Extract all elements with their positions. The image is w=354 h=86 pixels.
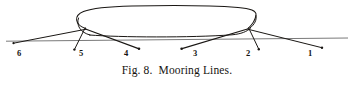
ship-hull-bow-curve [78, 18, 90, 35]
mooring-rope-4 [86, 29, 139, 49]
figure-caption: Fig. 8. Mooring Lines. [0, 64, 354, 76]
mooring-label-5: 5 [79, 48, 83, 58]
mooring-label-2: 2 [246, 48, 250, 58]
anchor-point-6 [12, 42, 14, 44]
figure-container: 6 5 4 3 2 1 Fig. 8. Mooring Lines. [0, 0, 354, 86]
mooring-label-6: 6 [17, 48, 21, 58]
ship-deck-outline [77, 6, 256, 29]
anchor-point-3 [180, 48, 183, 51]
mooring-label-4: 4 [124, 48, 129, 58]
anchor-point-1 [321, 47, 323, 49]
waterline [6, 38, 348, 41]
mooring-label-1: 1 [308, 48, 312, 58]
anchor-point-5 [73, 48, 75, 50]
mooring-line-6 [12, 29, 86, 44]
anchor-point-4 [138, 48, 141, 51]
anchor-point-2 [258, 48, 260, 50]
mooring-label-3: 3 [193, 48, 197, 58]
ship-hull-group [77, 6, 257, 37]
